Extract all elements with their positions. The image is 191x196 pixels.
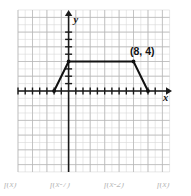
clipped-answer-choices: f(x) f(x-7) f(x-2) f(x) <box>0 183 191 196</box>
vertex-point-left-base <box>52 89 56 93</box>
clipped-choice-1: f(x-7) <box>50 183 70 189</box>
clipped-choice-0: f(x) <box>4 183 17 189</box>
vertex-point-right-base <box>146 89 150 93</box>
coordinate-graph: (8, 4) y x <box>0 0 191 196</box>
y-axis-label: y <box>72 14 79 25</box>
point-label: (8, 4) <box>130 45 155 57</box>
vertex-point-top-right <box>132 60 136 64</box>
clipped-choice-3: f(x) <box>157 183 170 189</box>
figure-stage: (8, 4) y x f(x) f(x-7) f(x-2) f(x) <box>0 0 191 196</box>
x-axis-label: x <box>162 92 168 103</box>
clipped-choice-2: f(x-2) <box>104 183 124 189</box>
vertex-point-top-left <box>67 60 71 64</box>
